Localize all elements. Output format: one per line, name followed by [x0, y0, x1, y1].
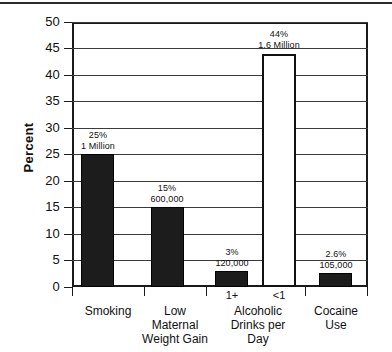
y-tick-label-5: 5 — [26, 253, 60, 266]
y-tick-mark-0 — [64, 287, 72, 288]
bar-smoking — [81, 154, 114, 287]
gridline-40 — [72, 75, 368, 76]
gridline-10 — [72, 234, 368, 235]
x-tick-mark-2 — [206, 287, 207, 296]
bar-chart: 50 45 40 35 30 25 20 15 10 5 0 Percent 2… — [0, 0, 392, 352]
gridline-50 — [72, 22, 368, 23]
bar-value-count: 600,000 — [137, 194, 197, 205]
y-tick-mark-25 — [64, 154, 72, 155]
gridline-15 — [72, 207, 368, 208]
y-tick-label-50: 50 — [26, 15, 60, 28]
bar-value-percent: 2.6% — [306, 249, 366, 260]
bar-value-alcoholic-1-plus: 3% 120,000 — [202, 247, 262, 269]
y-tick-label-10: 10 — [26, 227, 60, 240]
bar-value-percent: 15% — [137, 183, 197, 194]
y-tick-mark-30 — [64, 128, 72, 129]
x-category-line-2: Drinks per — [216, 318, 300, 332]
bar-cocaine-use — [319, 273, 352, 287]
gridline-25 — [72, 154, 368, 155]
y-tick-label-15: 15 — [26, 200, 60, 213]
y-tick-mark-10 — [64, 234, 72, 235]
bar-value-count: 1.6 Million — [249, 40, 309, 51]
x-tick-mark-1 — [144, 287, 145, 296]
y-tick-mark-40 — [64, 75, 72, 76]
bar-alcoholic-drinks-less-than-1 — [262, 54, 296, 287]
gridline-45 — [72, 48, 368, 49]
bar-value-percent: 3% — [202, 247, 262, 258]
x-category-label-cocaine-use: Cocaine Use — [296, 304, 376, 332]
bar-alcoholic-drinks-1-plus — [215, 271, 248, 287]
x-sub-label-1-plus: 1+ — [212, 289, 252, 301]
x-category-label-low-maternal-weight-gain: Low Maternal Weight Gain — [135, 304, 215, 346]
y-tick-mark-50 — [64, 22, 72, 23]
x-category-line-3: Weight Gain — [135, 332, 215, 346]
bar-value-count: 120,000 — [202, 258, 262, 269]
y-axis-title: Percent — [21, 103, 36, 193]
y-tick-mark-20 — [64, 181, 72, 182]
bar-value-smoking: 25% 1 Million — [68, 130, 128, 152]
y-tick-label-0: 0 — [26, 280, 60, 293]
bar-low-maternal-weight-gain — [151, 207, 184, 287]
bar-value-count: 1 Million — [68, 141, 128, 152]
x-category-label-alcoholic-drinks-per-day: Alcoholic Drinks per Day — [216, 304, 300, 346]
x-category-line-2: Maternal — [135, 318, 215, 332]
x-category-line-3: Day — [216, 332, 300, 346]
y-tick-mark-15 — [64, 207, 72, 208]
bar-value-percent: 25% — [68, 130, 128, 141]
x-category-line-1: Cocaine — [296, 304, 376, 318]
gridline-35 — [72, 101, 368, 102]
y-tick-mark-45 — [64, 48, 72, 49]
x-sub-label-less-than-1: <1 — [259, 289, 299, 301]
y-tick-label-45: 45 — [26, 41, 60, 54]
x-tick-mark-4 — [367, 287, 368, 296]
y-tick-mark-35 — [64, 101, 72, 102]
x-category-line-1: Alcoholic — [216, 304, 300, 318]
bar-value-count: 105,000 — [306, 260, 366, 271]
gridline-20 — [72, 181, 368, 182]
y-tick-label-40: 40 — [26, 68, 60, 81]
x-category-line-1: Low — [135, 304, 215, 318]
bar-value-low-maternal-weight-gain: 15% 600,000 — [137, 183, 197, 205]
x-category-line-2: Use — [296, 318, 376, 332]
y-tick-mark-5 — [64, 260, 72, 261]
x-tick-mark-0 — [72, 287, 73, 296]
bar-value-cocaine-use: 2.6% 105,000 — [306, 249, 366, 271]
bar-value-alcoholic-less-than-1: 44% 1.6 Million — [249, 29, 309, 51]
x-tick-mark-3 — [305, 287, 306, 296]
bar-value-percent: 44% — [249, 29, 309, 40]
gridline-30 — [72, 128, 368, 129]
